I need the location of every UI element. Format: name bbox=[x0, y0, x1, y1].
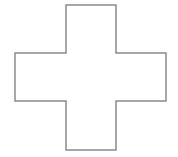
cross-shape bbox=[15, 5, 166, 150]
diagram-canvas bbox=[0, 0, 178, 157]
